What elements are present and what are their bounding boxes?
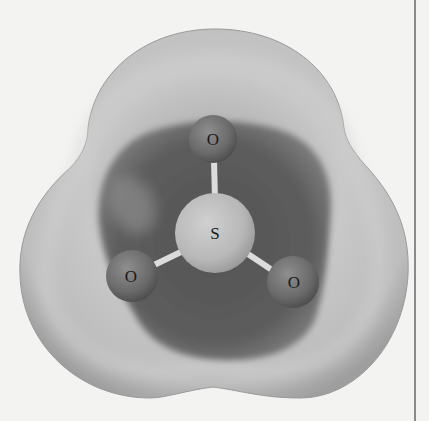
atom-oxygen-bottom-right: O <box>267 256 319 308</box>
atom-label-o1: O <box>207 130 219 149</box>
column-rule <box>414 0 416 421</box>
electrostatic-potential-map-figure: O S O O <box>0 0 429 421</box>
scanned-page: O S O O <box>0 0 429 421</box>
atom-sulfur: S <box>175 193 255 273</box>
atom-oxygen-bottom-left: O <box>106 250 158 302</box>
atom-label-o2: O <box>125 267 137 286</box>
atom-label-o3: O <box>288 273 300 292</box>
atom-oxygen-top: O <box>189 115 237 163</box>
atom-label-s: S <box>210 224 219 243</box>
